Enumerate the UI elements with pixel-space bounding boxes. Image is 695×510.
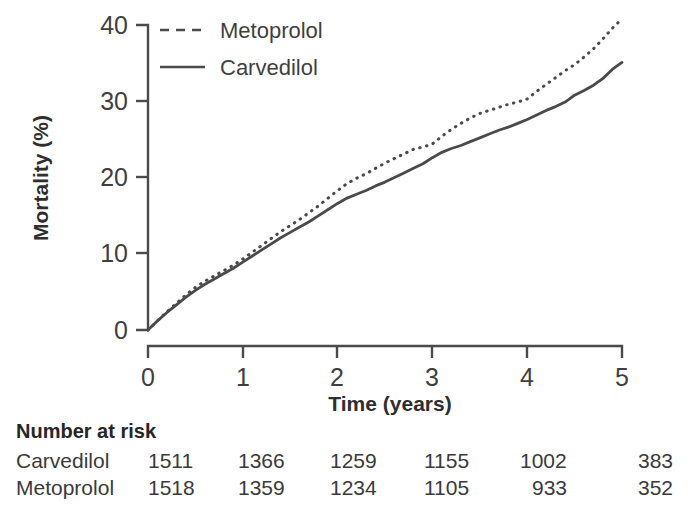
risk-row-label-carvedilol: Carvedilol (16, 449, 109, 472)
risk-value-metoprolol-3: 1105 (424, 476, 469, 499)
kaplan-meier-chart: 40 30 20 10 0 Mortality (%) 0 1 2 3 4 5 … (0, 0, 695, 510)
risk-value-carvedilol-3: 1155 (424, 449, 469, 472)
y-axis: 40 30 20 10 0 (100, 11, 148, 344)
risk-value-carvedilol-2: 1259 (330, 449, 377, 472)
y-tick-label-10: 10 (100, 239, 128, 267)
x-tick-label-5: 5 (615, 363, 629, 391)
y-tick-label-0: 0 (114, 316, 128, 344)
x-tick-label-0: 0 (141, 363, 155, 391)
risk-value-carvedilol-1: 1366 (238, 449, 285, 472)
risk-value-metoprolol-0: 1518 (148, 476, 195, 499)
x-axis-spine (148, 346, 622, 358)
legend-label-metoprolol: Metoprolol (220, 18, 323, 43)
risk-table-row: Carvedilol 1511 1366 1259 1155 1002 383 (16, 449, 673, 472)
risk-table-heading: Number at risk (16, 420, 157, 442)
risk-table: Number at risk Carvedilol 1511 1366 1259… (16, 420, 673, 499)
y-axis-title: Mortality (%) (29, 115, 52, 241)
risk-value-metoprolol-2: 1234 (330, 476, 377, 499)
risk-value-carvedilol-5: 383 (638, 449, 673, 472)
y-tick-label-40: 40 (100, 11, 128, 39)
risk-table-row: Metoprolol 1518 1359 1234 1105 933 352 (16, 476, 673, 499)
series-line-carvedilol (148, 62, 622, 330)
legend-label-carvedilol: Carvedilol (220, 55, 318, 80)
x-tick-label-4: 4 (520, 363, 534, 391)
chart-figure: 40 30 20 10 0 Mortality (%) 0 1 2 3 4 5 … (0, 0, 695, 510)
x-tick-label-1: 1 (236, 363, 250, 391)
x-tick-label-3: 3 (425, 363, 439, 391)
risk-value-carvedilol-4: 1002 (520, 449, 567, 472)
y-tick-label-30: 30 (100, 87, 128, 115)
x-axis: 0 1 2 3 4 5 (141, 346, 629, 391)
x-tick-label-2: 2 (330, 363, 344, 391)
risk-value-carvedilol-0: 1511 (148, 449, 193, 472)
risk-row-label-metoprolol: Metoprolol (16, 476, 114, 499)
y-tick-label-20: 20 (100, 163, 128, 191)
risk-value-metoprolol-5: 352 (638, 476, 673, 499)
risk-value-metoprolol-4: 933 (532, 476, 567, 499)
x-axis-title: Time (years) (328, 392, 451, 415)
risk-value-metoprolol-1: 1359 (238, 476, 285, 499)
legend: Metoprolol Carvedilol (160, 18, 323, 80)
